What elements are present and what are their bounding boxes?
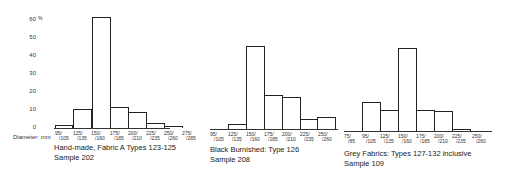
bar-175-185 <box>110 107 129 128</box>
y-tick-0: 0 <box>20 124 36 130</box>
x-tick: 275//285 <box>182 131 196 141</box>
chart-caption: Hand-made, Fabric A Types 123-125 Sample… <box>54 143 176 163</box>
x-tick: 225//235 <box>300 132 314 142</box>
bar-200-210 <box>282 97 301 129</box>
x-tick: 150//160 <box>91 131 105 141</box>
caption-sample: Sample 109 <box>344 159 471 169</box>
y-unit: % <box>38 15 42 21</box>
x-tick: 250//260 <box>164 131 178 141</box>
caption-title: Hand-made, Fabric A Types 123-125 <box>54 143 176 153</box>
baseline <box>54 128 170 129</box>
x-tick: 75//85 <box>344 134 355 144</box>
bar-225-235 <box>146 123 165 128</box>
x-tick: 175//185 <box>110 131 124 141</box>
x-tick: 95//105 <box>362 134 376 144</box>
x-axis-label: Diameter: mm <box>13 134 51 140</box>
y-tick-40: 40 <box>20 52 36 58</box>
chart-caption: Grey Fabrics: Types 127-132 inclusive Sa… <box>344 149 471 169</box>
y-tick-10: 10 <box>20 106 36 112</box>
y-tick-30: 30 <box>20 70 36 76</box>
x-tick: 175//185 <box>416 134 430 144</box>
bar-200-210 <box>128 112 147 128</box>
bar-200-210 <box>434 111 453 131</box>
y-tick-60: 60 <box>20 16 36 22</box>
x-tick: 150//160 <box>398 134 412 144</box>
bar-150-160 <box>92 17 111 128</box>
bar-250-260 <box>164 126 183 128</box>
bar-150-160 <box>398 48 417 131</box>
chart-caption: Black Burnished: Type 126 Sample 208 <box>210 145 299 165</box>
x-tick: 125//135 <box>380 134 394 144</box>
x-tick: 200//210 <box>128 131 142 141</box>
bar-125-135 <box>228 124 247 129</box>
bar-175-185 <box>416 110 435 131</box>
x-tick: 250//260 <box>472 134 486 144</box>
bar-175-185 <box>264 95 283 129</box>
bar-225-235 <box>300 119 318 129</box>
x-tick: 125//135 <box>73 131 87 141</box>
bar-225-235 <box>452 129 471 131</box>
x-tick: 250//260 <box>318 132 332 142</box>
y-tick-20: 20 <box>20 88 36 94</box>
x-tick: 150//160 <box>246 132 260 142</box>
bar-125-135 <box>380 110 399 131</box>
x-tick: 95//105 <box>210 132 224 142</box>
caption-title: Grey Fabrics: Types 127-132 inclusive <box>344 149 471 159</box>
x-tick: 225//235 <box>146 131 160 141</box>
baseline <box>210 129 338 130</box>
x-tick: 125//135 <box>228 132 242 142</box>
caption-sample: Sample 208 <box>210 155 299 165</box>
baseline <box>344 131 492 132</box>
bar-95-105 <box>55 125 73 128</box>
x-tick: 175//185 <box>264 132 278 142</box>
x-tick: 200//210 <box>434 134 448 144</box>
bar-150-160 <box>246 46 265 129</box>
bar-125-135 <box>73 109 92 128</box>
y-tick-50: 50 <box>20 34 36 40</box>
bar-250-260 <box>317 117 336 129</box>
x-tick: 95//105 <box>55 131 69 141</box>
x-tick: 200//210 <box>282 132 296 142</box>
caption-sample: Sample 202 <box>54 153 176 163</box>
caption-title: Black Burnished: Type 126 <box>210 145 299 155</box>
x-tick: 225//235 <box>452 134 466 144</box>
bar-95-105 <box>362 102 381 131</box>
